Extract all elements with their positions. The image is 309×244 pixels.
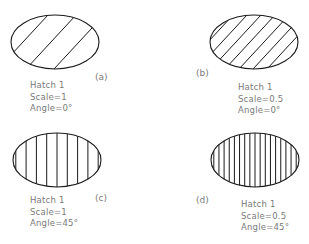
- angle-b: Angle=0°: [238, 105, 283, 117]
- ellipse-a: [11, 15, 99, 69]
- panel-tag-c: (c): [95, 193, 107, 203]
- panel-tag-b: (b): [196, 68, 209, 78]
- hatch-name-c: Hatch 1: [30, 195, 78, 207]
- panel-a-caption: Hatch 1 Scale=1 Angle=0°: [30, 80, 73, 115]
- hatch-name-b: Hatch 1: [238, 82, 283, 94]
- hatch-name-a: Hatch 1: [30, 80, 73, 92]
- scale-a: Scale=1: [30, 92, 73, 104]
- angle-a: Angle=0°: [30, 103, 73, 115]
- panel-c-caption: Hatch 1 Scale=1 Angle=45°: [30, 195, 78, 230]
- angle-c: Angle=45°: [30, 218, 78, 230]
- scale-b: Scale=0.5: [238, 94, 283, 106]
- panel-d-caption: Hatch 1 Scale=0.5 Angle=45°: [241, 199, 289, 234]
- panel-tag-a: (a): [95, 72, 108, 82]
- panel-b-caption: Hatch 1 Scale=0.5 Angle=0°: [238, 82, 283, 117]
- scale-c: Scale=1: [30, 207, 78, 219]
- panel-tag-d: (d): [196, 195, 209, 205]
- scale-d: Scale=0.5: [241, 211, 289, 223]
- angle-d: Angle=45°: [241, 222, 289, 234]
- hatch-name-d: Hatch 1: [241, 199, 289, 211]
